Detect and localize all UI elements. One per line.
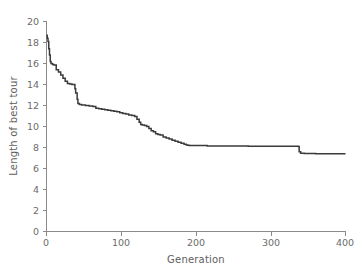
x-tick-label-400: 400 [336, 237, 354, 248]
figure-container: 0 2 4 6 8 10 12 14 16 18 20 0 100 200 30… [0, 0, 363, 273]
x-tick-label-200: 200 [187, 237, 205, 248]
x-tick-label-100: 100 [112, 237, 130, 248]
x-axis-title: Generation [167, 254, 225, 265]
y-tick-label-0: 0 [33, 226, 39, 237]
y-tick-label-6: 6 [33, 163, 39, 174]
plot-background [0, 0, 363, 273]
y-tick-label-20: 20 [27, 16, 39, 27]
x-tick-label-300: 300 [262, 237, 280, 248]
y-axis-title: Length of best tour [8, 76, 19, 176]
y-tick-label-18: 18 [27, 37, 39, 48]
line-chart: 0 2 4 6 8 10 12 14 16 18 20 0 100 200 30… [0, 0, 363, 273]
y-tick-label-10: 10 [27, 121, 39, 132]
y-tick-label-12: 12 [27, 100, 39, 111]
y-tick-label-4: 4 [33, 184, 39, 195]
x-tick-label-0: 0 [43, 237, 49, 248]
y-tick-label-2: 2 [33, 205, 39, 216]
y-tick-label-14: 14 [27, 79, 39, 90]
y-tick-label-8: 8 [33, 142, 39, 153]
y-tick-label-16: 16 [27, 58, 39, 69]
